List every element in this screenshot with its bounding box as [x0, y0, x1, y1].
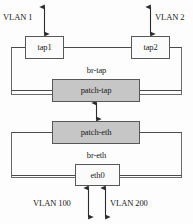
diagram-lines-layer	[0, 0, 193, 224]
node-eth0-label: eth0	[90, 171, 104, 180]
network-topology-diagram: tap1 tap2 patch-tap patch-eth eth0 br-ta…	[0, 0, 193, 224]
node-tap1[interactable]: tap1	[25, 36, 64, 59]
node-tap2[interactable]: tap2	[131, 36, 170, 59]
bridge-label-br-eth: br-eth	[0, 150, 193, 160]
bridge-label-br-tap: br-tap	[0, 65, 193, 75]
node-patch-tap-label: patch-tap	[81, 86, 112, 95]
vlan-label-vlan200: VLAN 200	[110, 198, 148, 208]
node-tap1-label: tap1	[37, 43, 51, 52]
vlan-label-vlan1: VLAN 1	[3, 12, 32, 22]
node-patch-eth[interactable]: patch-eth	[52, 121, 140, 144]
node-eth0[interactable]: eth0	[75, 164, 120, 186]
node-tap2-label: tap2	[143, 43, 157, 52]
vlan-label-vlan100: VLAN 100	[33, 198, 71, 208]
node-patch-eth-label: patch-eth	[81, 128, 112, 137]
node-patch-tap[interactable]: patch-tap	[52, 79, 140, 102]
vlan-label-vlan2: VLAN 2	[155, 12, 184, 22]
